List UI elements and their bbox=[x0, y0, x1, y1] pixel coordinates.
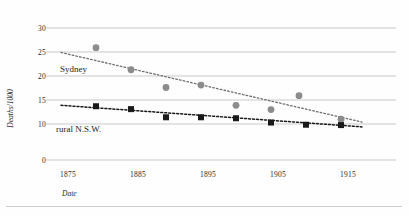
data-point bbox=[303, 122, 309, 128]
data-point bbox=[268, 106, 275, 113]
series-sydney bbox=[61, 44, 362, 122]
data-point bbox=[93, 103, 99, 109]
data-point bbox=[128, 106, 134, 112]
data-point bbox=[268, 120, 274, 126]
data-point bbox=[198, 82, 205, 89]
trendline bbox=[61, 52, 362, 122]
data-point bbox=[296, 92, 303, 99]
data-point bbox=[93, 44, 100, 51]
data-point bbox=[233, 115, 239, 121]
plot-area bbox=[0, 0, 409, 216]
chart-figure: 30 25 20 15 10 0 1875 1885 1895 1905 191… bbox=[0, 0, 409, 216]
data-point bbox=[163, 114, 169, 120]
data-point bbox=[198, 114, 204, 120]
data-point bbox=[163, 84, 170, 91]
data-point bbox=[338, 122, 344, 128]
footer-rule bbox=[6, 206, 402, 207]
data-point bbox=[233, 102, 240, 109]
data-point bbox=[338, 116, 345, 123]
data-point bbox=[128, 66, 135, 73]
